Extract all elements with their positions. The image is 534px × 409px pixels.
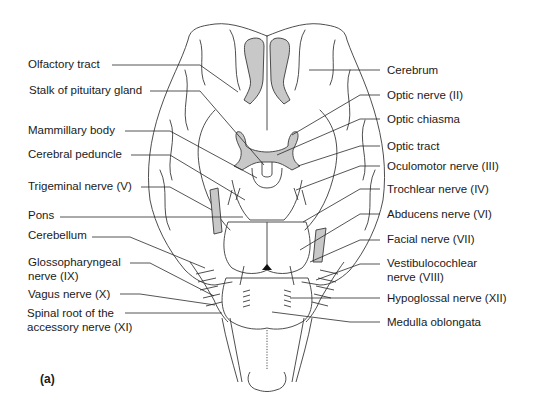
- label-stalk-of-pituitary-gland: Stalk of pituitary gland: [29, 84, 142, 97]
- spinal-cord: [248, 372, 286, 392]
- label-glossopharyngeal-line2: nerve (IX): [28, 270, 79, 283]
- label-vestibulocochlear-line2: nerve (VIII): [387, 271, 444, 284]
- label-hypoglossal-nerve: Hypoglossal nerve (XII): [387, 292, 507, 305]
- label-optic-nerve: Optic nerve (II): [387, 89, 463, 102]
- label-medulla-oblongata: Medulla oblongata: [387, 316, 481, 329]
- label-trochlear-nerve: Trochlear nerve (IV): [387, 183, 489, 196]
- label-abducens-nerve: Abducens nerve (VI): [387, 208, 492, 221]
- label-vagus-nerve: Vagus nerve (X): [28, 288, 110, 301]
- label-spinal-root-accessory-line1: Spinal root of the: [27, 307, 114, 320]
- label-vestibulocochlear-line1: Vestibulocochlear: [387, 257, 477, 270]
- label-spinal-root-accessory-line2: accessory nerve (XI): [27, 321, 132, 334]
- medulla-oblongata: [222, 278, 312, 329]
- label-cerebral-peduncle: Cerebral peduncle: [28, 148, 122, 161]
- optic-chiasma: [234, 132, 300, 170]
- cerebral-peduncle: [232, 180, 302, 220]
- label-olfactory-tract: Olfactory tract: [28, 58, 100, 71]
- right-olfactory-tract: [270, 38, 290, 104]
- label-facial-nerve: Facial nerve (VII): [387, 233, 475, 246]
- left-olfactory-tract: [244, 38, 264, 104]
- brain-diagram: Olfactory tract Stalk of pituitary gland…: [0, 0, 534, 409]
- label-cerebrum: Cerebrum: [387, 64, 438, 77]
- panel-label: (a): [40, 372, 55, 386]
- label-glossopharyngeal-line1: Glossopharyngeal: [28, 256, 121, 269]
- label-pons: Pons: [28, 209, 54, 222]
- label-optic-tract: Optic tract: [387, 140, 439, 153]
- label-trigeminal-nerve: Trigeminal nerve (V): [28, 180, 132, 193]
- label-oculomotor-nerve: Oculomotor nerve (III): [387, 160, 499, 173]
- label-cerebellum: Cerebellum: [28, 229, 87, 242]
- label-optic-chiasma: Optic chiasma: [387, 113, 460, 126]
- label-mammillary-body: Mammillary body: [28, 124, 115, 137]
